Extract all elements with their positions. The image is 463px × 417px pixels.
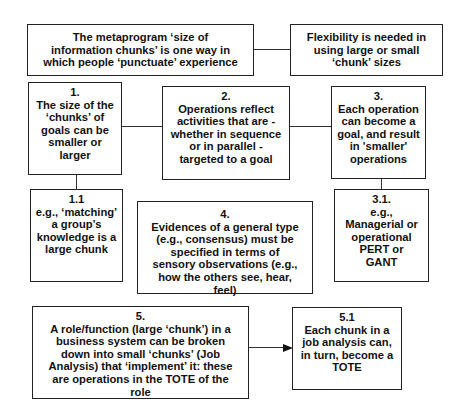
box-3-1-text: e.g., Managerial or operational PERT or … [335,206,428,269]
box-intro-text: The metaprogram ‘size of information chu… [28,31,253,69]
box-1-1-number: 1.1 [69,193,85,206]
box-2-number: 2. [221,90,230,103]
box-4: 4. Evidences of a general type (e.g., co… [137,201,313,294]
box-5-number: 5. [136,310,145,323]
box-4-number: 4. [220,208,229,221]
box-3-text: Each operation can become a goal, and re… [332,103,425,166]
box-3-1-number: 3.1. [372,193,391,206]
box-3: 3. Each operation can become a goal, and… [331,86,426,179]
box-4-text: Evidences of a general type (e.g., conse… [138,221,312,297]
connector-b3-b3-1 [381,178,382,189]
box-5-1-number: 5.1 [339,311,355,324]
box-5-text: A role/function (large ‘chunk’) in a bus… [33,323,248,399]
box-5: 5. A role/function (large ‘chunk’) in a … [32,306,249,399]
connector-b1-b2 [121,126,162,127]
box-1-text: The size of the ‘chunks’ of goals can be… [29,99,121,162]
box-flexibility: Flexibility is needed in using large or … [290,24,443,76]
box-5-1: 5.1 Each chunk in a job analysis can, in… [292,307,402,390]
connector-b2-b3 [289,126,331,127]
box-2: 2. Operations reflect activities that ar… [162,86,290,180]
box-3-number: 3. [374,90,383,103]
box-3-1: 3.1. e.g., Managerial or operational PER… [334,189,429,282]
connector-b1-b1-1 [76,174,77,189]
connector-b5-b5-1 [248,347,284,348]
box-2-text: Operations reflect activities that are -… [163,103,289,166]
box-1: 1. The size of the ‘chunks’ of goals can… [28,82,122,175]
box-1-number: 1. [70,86,79,99]
box-flexibility-text: Flexibility is needed in using large or … [291,31,442,69]
connector-intro-flexibility [253,49,290,50]
box-1-1-text: e.g., ‘matching’ a group’s knowledge is … [31,206,122,256]
box-5-1-text: Each chunk in a job analysis can, in tur… [293,324,401,374]
box-1-1: 1.1 e.g., ‘matching’ a group’s knowledge… [30,189,123,282]
box-intro: The metaprogram ‘size of information chu… [27,24,254,76]
